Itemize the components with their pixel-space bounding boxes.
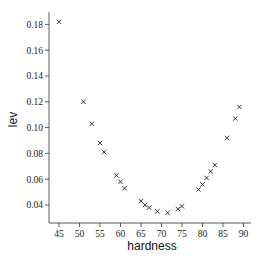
y-tick-label: 0.08 bbox=[26, 149, 43, 159]
data-point-marker bbox=[213, 163, 217, 167]
data-point-marker bbox=[225, 136, 229, 140]
x-tick-label: 60 bbox=[116, 229, 126, 239]
x-tick-label: 50 bbox=[75, 229, 85, 239]
y-tick-label: 0.12 bbox=[26, 97, 43, 107]
x-tick-label: 45 bbox=[54, 229, 64, 239]
y-tick-label: 0.10 bbox=[26, 123, 43, 133]
y-tick-label: 0.04 bbox=[26, 200, 43, 210]
data-point-marker bbox=[196, 187, 200, 191]
data-point-marker bbox=[176, 207, 180, 211]
x-tick-label: 85 bbox=[218, 229, 228, 239]
y-tick-label: 0.14 bbox=[26, 71, 43, 81]
x-tick-label: 55 bbox=[95, 229, 105, 239]
x-axis-title: hardness bbox=[127, 239, 176, 253]
data-point-marker bbox=[180, 204, 184, 208]
data-points bbox=[57, 20, 242, 215]
y-tick-label: 0.18 bbox=[26, 20, 43, 30]
data-point-marker bbox=[204, 176, 208, 180]
data-point-marker bbox=[237, 105, 241, 109]
data-point-marker bbox=[98, 141, 102, 145]
data-point-marker bbox=[114, 173, 118, 177]
data-point-marker bbox=[102, 150, 106, 154]
axes: 0.040.060.080.100.120.140.160.18 4550556… bbox=[26, 12, 251, 239]
x-tick-label: 65 bbox=[136, 229, 146, 239]
y-tick-label: 0.06 bbox=[26, 175, 43, 185]
data-point-marker bbox=[200, 182, 204, 186]
data-point-marker bbox=[57, 20, 61, 24]
y-ticks: 0.040.060.080.100.120.140.160.18 bbox=[26, 20, 49, 211]
data-point-marker bbox=[139, 199, 143, 203]
data-point-marker bbox=[233, 116, 237, 120]
scatter-chart: 0.040.060.080.100.120.140.160.18 4550556… bbox=[0, 0, 272, 258]
x-tick-label: 75 bbox=[177, 229, 187, 239]
data-point-marker bbox=[118, 180, 122, 184]
data-point-marker bbox=[209, 169, 213, 173]
y-axis-title: lev bbox=[6, 112, 20, 127]
x-tick-label: 90 bbox=[239, 229, 249, 239]
data-point-marker bbox=[155, 209, 159, 213]
data-point-marker bbox=[147, 205, 151, 209]
data-point-marker bbox=[143, 203, 147, 207]
x-tick-label: 70 bbox=[157, 229, 167, 239]
x-ticks: 45505560657075808590 bbox=[54, 223, 248, 239]
data-point-marker bbox=[81, 100, 85, 104]
y-tick-label: 0.16 bbox=[26, 46, 43, 56]
data-point-marker bbox=[165, 211, 169, 215]
data-point-marker bbox=[122, 186, 126, 190]
x-tick-label: 80 bbox=[198, 229, 208, 239]
data-point-marker bbox=[90, 122, 94, 126]
